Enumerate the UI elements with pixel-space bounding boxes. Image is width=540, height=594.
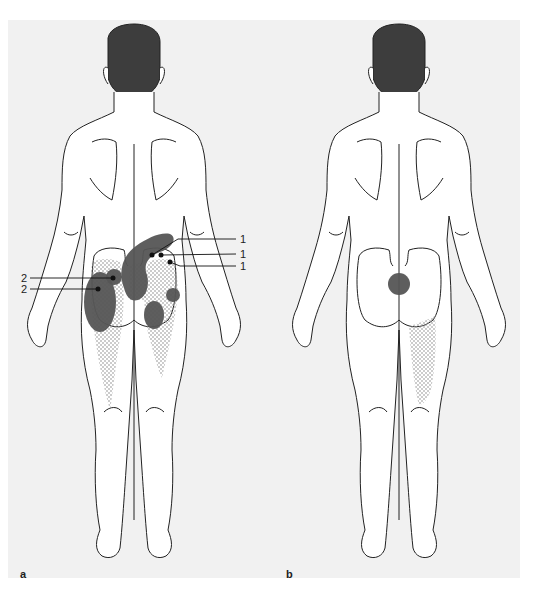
figure-b-dark-zone xyxy=(388,273,410,295)
callout-label-1: 1 xyxy=(240,261,246,272)
callout-label-2: 2 xyxy=(21,284,27,295)
body-diagram xyxy=(0,0,540,594)
callout-label-1: 1 xyxy=(240,234,246,245)
panel-label-b: b xyxy=(286,568,293,580)
figure-b-body xyxy=(293,24,506,558)
callout-label-1: 1 xyxy=(240,249,246,260)
panel-label-a: a xyxy=(20,568,26,580)
